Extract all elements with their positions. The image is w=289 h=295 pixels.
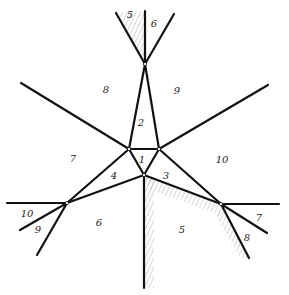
region-label: 10 (21, 208, 34, 219)
graph-node-left (65, 201, 68, 204)
region-label: 10 (216, 154, 229, 165)
graph-node-inner-bottom (142, 173, 145, 176)
region-label: 7 (256, 212, 263, 223)
graph-node-right (219, 202, 222, 205)
diagram-canvas: 568921743101096578 (0, 0, 289, 295)
graph-edge (144, 149, 159, 175)
region-label: 3 (163, 170, 169, 181)
region-label: 7 (70, 153, 77, 164)
region-label: 9 (35, 224, 42, 235)
graph-edge (145, 14, 174, 64)
region-label: 6 (96, 217, 103, 228)
graph-edge (67, 149, 129, 203)
region-label: 8 (244, 232, 250, 243)
region-label: 8 (103, 84, 109, 95)
planar-graph-diagram: 568921743101096578 (0, 0, 289, 295)
region-label: 4 (110, 170, 117, 181)
region-label: 9 (174, 85, 181, 96)
graph-edge (129, 64, 145, 149)
graph-edge (145, 64, 159, 149)
hatch-lower-vertical (145, 176, 154, 288)
region-label: 1 (139, 154, 145, 165)
region-label: 6 (151, 18, 158, 29)
graph-node-top (143, 62, 146, 65)
graph-node-inner-right (157, 147, 160, 150)
region-label: 5 (127, 9, 133, 20)
graph-edge (21, 83, 129, 149)
graph-edge (67, 175, 144, 203)
region-label: 2 (137, 117, 144, 128)
graph-node-inner-left (127, 147, 130, 150)
region-label: 5 (179, 224, 185, 235)
